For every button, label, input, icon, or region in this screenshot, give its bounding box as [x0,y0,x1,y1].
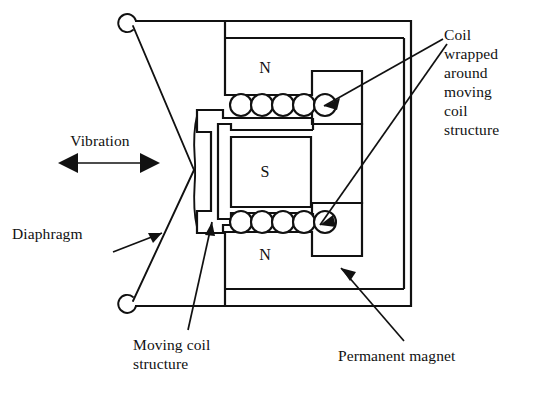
pole-label-n-top: N [259,59,271,76]
pole-label-s: S [261,163,270,180]
permanent-magnet-body [135,21,411,306]
coil-winding-bottom [230,211,336,233]
label-coil-wrapped-around-moving-coil-structure: Coil wrapped around moving coil structur… [444,25,534,139]
south-core-rectangle [231,137,311,207]
label-diaphragm: Diaphragm [12,224,122,243]
diagram-canvas: N S N [0,0,535,393]
label-moving-coil-structure: Moving coil structure [133,335,253,373]
label-permanent-magnet: Permanent magnet [338,346,528,365]
coil-winding-top [230,94,336,116]
vibration-arrow-icon [58,153,160,173]
leader-permanent-magnet [341,268,404,341]
label-vibration: Vibration [40,131,160,150]
south-pole-piece [312,124,362,203]
leader-moving-coil-structure [188,222,215,330]
pole-label-n-bottom: N [259,246,271,263]
